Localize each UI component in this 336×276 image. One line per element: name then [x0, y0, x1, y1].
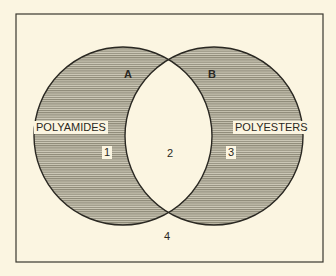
polyamides-label: POLYAMIDES — [34, 121, 108, 134]
set-a-label: A — [124, 68, 132, 81]
polyesters-label: POLYESTERS — [233, 121, 310, 134]
region-3-label: 3 — [226, 146, 236, 159]
region-2-label: 2 — [167, 147, 173, 160]
set-b-label: B — [208, 68, 216, 81]
region-1-label: 1 — [102, 146, 112, 159]
region-4-label: 4 — [164, 230, 170, 243]
